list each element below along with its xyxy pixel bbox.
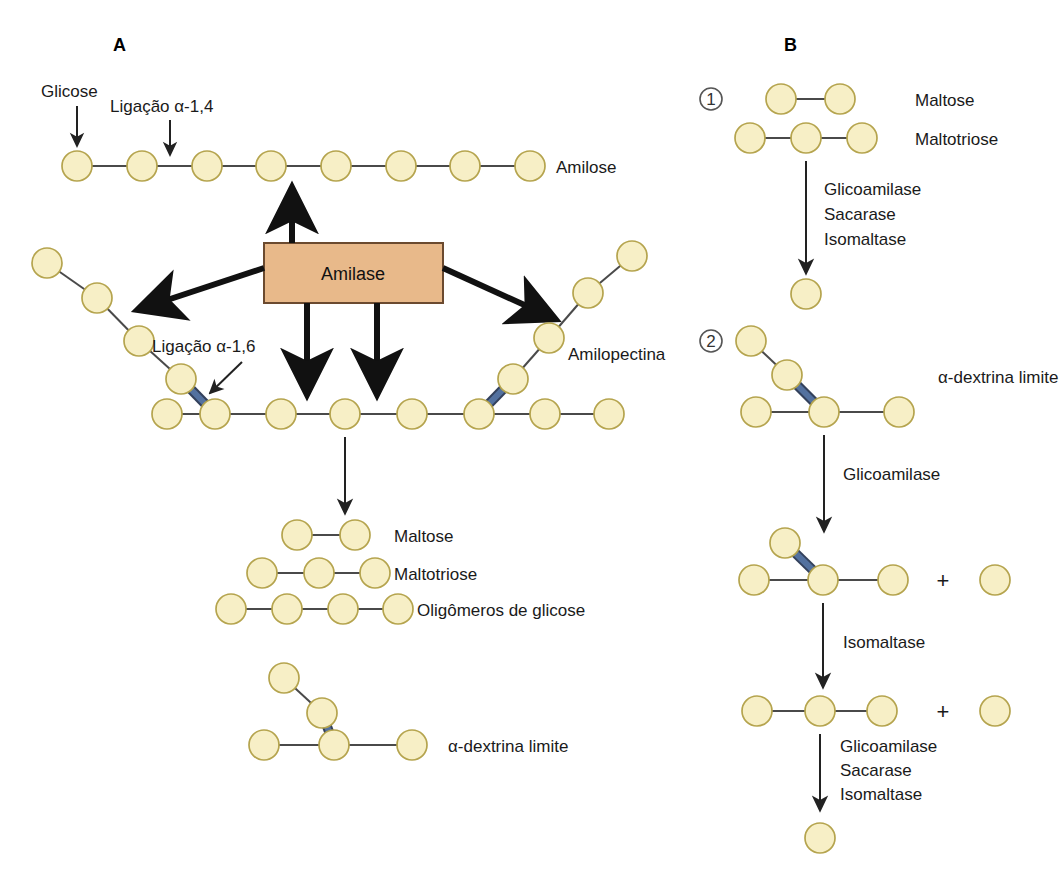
label-alpha-dextrina-a: α-dextrina limite xyxy=(448,737,568,756)
label-ligacao-alfa-1-6: Ligação α-1,6 xyxy=(152,337,255,356)
step-2-number: 2 xyxy=(706,332,715,351)
glucose-unit xyxy=(328,594,358,624)
label-amilopectina: Amilopectina xyxy=(568,345,666,364)
glucose-unit xyxy=(32,248,62,278)
glucose-unit xyxy=(742,696,772,726)
enzyme-sacarase-3: Sacarase xyxy=(840,761,912,780)
glucose-unit xyxy=(594,399,624,429)
glucose-unit xyxy=(330,399,360,429)
glucose-unit xyxy=(825,84,855,114)
glucose-unit xyxy=(847,123,877,153)
glucose-unit xyxy=(809,397,839,427)
glucose-unit xyxy=(766,84,796,114)
enzyme-glicoamilase-2: Glicoamilase xyxy=(843,465,940,484)
enzyme-isomaltase-1: Isomaltase xyxy=(824,230,906,249)
glucose-unit xyxy=(340,520,370,550)
enzyme-sacarase-1: Sacarase xyxy=(824,205,896,224)
plus-symbol-1: + xyxy=(937,568,950,593)
glucose-unit xyxy=(124,326,154,356)
panel-a-letter: A xyxy=(113,35,126,55)
glucose-unit xyxy=(878,565,908,595)
glucose-unit xyxy=(884,397,914,427)
glucose-unit xyxy=(397,730,427,760)
glucose-unit xyxy=(530,399,560,429)
panel-b-letter: B xyxy=(784,35,797,55)
enzyme-isomaltase-3: Isomaltase xyxy=(840,785,922,804)
glucose-unit xyxy=(307,698,337,728)
glucose-unit xyxy=(266,399,296,429)
label-ligacao-alfa-1-4: Ligação α-1,4 xyxy=(110,97,213,116)
glucose-unit xyxy=(515,151,545,181)
label-oligomeros: Oligômeros de glicose xyxy=(417,601,585,620)
glucose-unit xyxy=(272,594,302,624)
product-maltotriose-structure xyxy=(247,558,390,588)
glucose-unit xyxy=(152,399,182,429)
label-maltose: Maltose xyxy=(394,527,454,546)
glucose-unit xyxy=(249,730,279,760)
glucose-unit-final-product xyxy=(805,823,835,853)
glucose-unit xyxy=(573,278,603,308)
glucose-unit xyxy=(741,397,771,427)
glucose-unit xyxy=(791,123,821,153)
glucose-unit-free-1 xyxy=(980,565,1010,595)
glucose-unit xyxy=(617,241,647,271)
label-b-maltose: Maltose xyxy=(915,91,975,110)
glucose-unit xyxy=(192,151,222,181)
glucose-unit xyxy=(127,151,157,181)
glucose-unit xyxy=(383,594,413,624)
enzyme-glicoamilase-1: Glicoamilase xyxy=(824,180,921,199)
b-maltotriose-structure xyxy=(735,123,877,153)
glucose-unit xyxy=(867,696,897,726)
b-linear-trimer-structure xyxy=(742,696,897,726)
glucose-unit xyxy=(269,663,299,693)
glucose-unit xyxy=(464,399,494,429)
glucose-unit xyxy=(450,151,480,181)
glucose-unit xyxy=(216,594,246,624)
label-amilase: Amilase xyxy=(321,264,385,284)
plus-symbol-2: + xyxy=(937,699,950,724)
glucose-unit xyxy=(498,364,528,394)
glucose-unit xyxy=(736,326,766,356)
glucose-unit xyxy=(386,151,416,181)
glucose-unit xyxy=(360,558,390,588)
glucose-unit xyxy=(321,151,351,181)
label-b-maltotriose: Maltotriose xyxy=(915,130,998,149)
glucose-unit xyxy=(247,558,277,588)
enzyme-glicoamilase-3: Glicoamilase xyxy=(840,737,937,756)
glucose-unit xyxy=(62,151,92,181)
glucose-unit-product-step1 xyxy=(791,279,821,309)
carbohydrate-digestion-diagram: A Glicose Ligação α-1,4 Amilose Amilase xyxy=(0,0,1063,883)
glucose-unit xyxy=(397,399,427,429)
glucose-unit-free-2 xyxy=(980,696,1010,726)
glucose-unit xyxy=(256,151,286,181)
glucose-unit xyxy=(282,520,312,550)
step-1-number: 1 xyxy=(706,90,715,109)
label-maltotriose: Maltotriose xyxy=(394,565,477,584)
glucose-unit xyxy=(739,565,769,595)
glucose-unit xyxy=(770,528,800,558)
glucose-unit xyxy=(319,730,349,760)
glucose-unit xyxy=(200,399,230,429)
glucose-unit xyxy=(805,696,835,726)
label-glicose: Glicose xyxy=(41,82,98,101)
glucose-unit xyxy=(735,123,765,153)
glucose-unit xyxy=(166,364,196,394)
glucose-unit xyxy=(808,565,838,595)
glucose-unit xyxy=(534,323,564,353)
label-alpha-dextrina-b: α-dextrina limite xyxy=(938,368,1058,387)
label-amilose: Amilose xyxy=(556,158,616,177)
glucose-unit xyxy=(772,360,802,390)
glucose-unit xyxy=(304,558,334,588)
glucose-unit xyxy=(82,283,112,313)
enzyme-isomaltase-2: Isomaltase xyxy=(843,633,925,652)
